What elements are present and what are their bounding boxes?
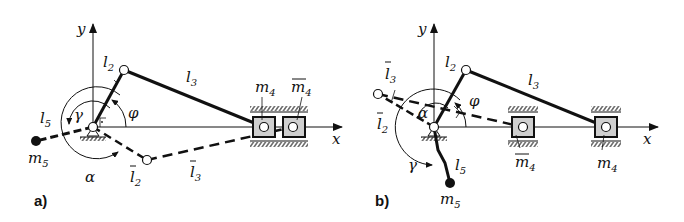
link-l2 bbox=[93, 70, 124, 127]
svg-text:m4: m4 bbox=[597, 154, 618, 174]
link-l2 bbox=[434, 70, 466, 127]
joint-l2bar-l3bar bbox=[374, 90, 383, 99]
label-m4-bar: m bbox=[515, 153, 529, 171]
link-l2-bar bbox=[93, 127, 147, 160]
panel-a: y x l2 l3 m4 m4 l5 m5 γ φ α l2 l3 a) bbox=[28, 20, 342, 209]
mass-m5 bbox=[445, 178, 455, 188]
panel-label-a: a) bbox=[34, 192, 47, 209]
panel-b: y x l2 l3 l3 l2 α φ γ l5 m5 m4 m4 b) bbox=[374, 20, 659, 210]
svg-text:l5: l5 bbox=[455, 156, 466, 176]
mechanism-diagram: y x l2 l3 m4 m4 l5 m5 γ φ α l2 l3 a) bbox=[0, 0, 684, 222]
svg-text:m5: m5 bbox=[440, 190, 461, 210]
link-l3 bbox=[466, 70, 606, 127]
mass-m5 bbox=[31, 136, 41, 146]
svg-text:m4: m4 bbox=[291, 78, 312, 98]
svg-text:l3: l3 bbox=[186, 68, 197, 88]
label-x-axis: x bbox=[332, 130, 341, 148]
label-y-axis: y bbox=[417, 20, 427, 38]
svg-text:l2: l2 bbox=[103, 53, 114, 73]
label-alpha: α bbox=[418, 104, 428, 122]
joint-l2bar-l3bar bbox=[143, 156, 152, 165]
joint-l2-l3 bbox=[462, 66, 471, 75]
label-m5: m bbox=[28, 149, 42, 167]
svg-text:x: x bbox=[643, 130, 652, 148]
joint-l2-l3 bbox=[120, 66, 129, 75]
svg-text:l3: l3 bbox=[385, 65, 396, 85]
label-x-axis: x bbox=[643, 130, 652, 148]
svg-text:l3: l3 bbox=[528, 71, 539, 91]
svg-text:l2: l2 bbox=[445, 53, 456, 73]
label-m4: m bbox=[255, 78, 269, 96]
joint-origin bbox=[430, 123, 439, 132]
label-alpha: α bbox=[85, 168, 95, 186]
svg-text:l3: l3 bbox=[190, 163, 201, 183]
label-m4: m bbox=[597, 154, 611, 172]
svg-text:x: x bbox=[332, 130, 341, 148]
svg-text:y: y bbox=[76, 20, 86, 38]
phi-arc bbox=[455, 103, 466, 127]
phi-arc bbox=[112, 100, 126, 127]
svg-text:m4: m4 bbox=[255, 78, 276, 98]
svg-text:l5: l5 bbox=[40, 109, 51, 129]
label-phi: φ bbox=[469, 92, 480, 110]
label-m5: m bbox=[440, 190, 454, 208]
svg-text:y: y bbox=[417, 20, 427, 38]
label-m4-bar: m bbox=[291, 78, 305, 96]
ground-hatch bbox=[80, 137, 106, 141]
panel-label-b: b) bbox=[375, 192, 389, 209]
joint-origin bbox=[89, 123, 98, 132]
label-gamma: γ bbox=[74, 106, 83, 124]
label-gamma: γ bbox=[408, 156, 417, 174]
link-l5 bbox=[434, 127, 450, 183]
label-y-axis: y bbox=[76, 20, 86, 38]
svg-text:m4: m4 bbox=[515, 153, 536, 173]
label-phi: φ bbox=[128, 104, 139, 122]
svg-text:l2: l2 bbox=[377, 115, 388, 135]
svg-text:m5: m5 bbox=[28, 149, 49, 169]
svg-text:l2: l2 bbox=[130, 168, 141, 188]
